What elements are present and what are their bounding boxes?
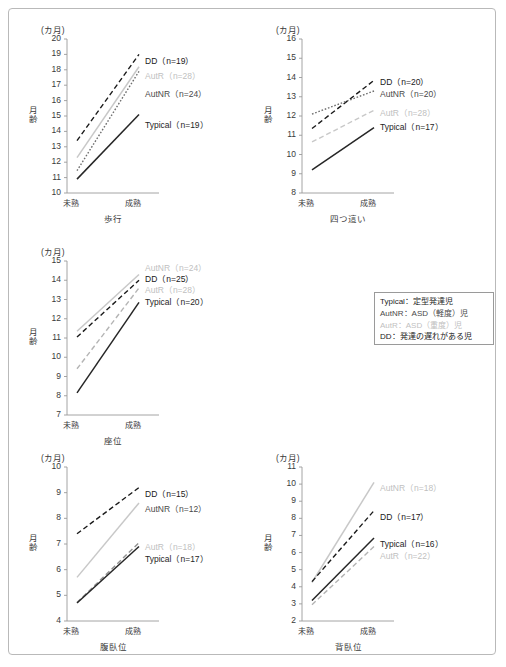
series-line-autr <box>77 67 139 158</box>
y-tick-label: 10 <box>33 187 61 197</box>
y-tick-label: 11 <box>268 461 296 471</box>
y-tick-label: 9 <box>268 168 296 178</box>
y-tick-label: 4 <box>33 615 61 625</box>
y-tick-label: 14 <box>33 125 61 135</box>
y-tick-label: 13 <box>268 91 296 101</box>
y-tick-label: 10 <box>268 149 296 159</box>
chart-panel-supine: (カ月)月齢234567891011未熟成熟背臥位AutNR（n=18）DD（n… <box>262 453 490 653</box>
series-label-autnr: AutNR（n=24） <box>145 87 207 99</box>
x-axis-title: 歩行 <box>67 212 159 224</box>
series-label-autnr: AutNR（n=18） <box>380 481 442 493</box>
y-tick-label: 16 <box>33 95 61 105</box>
series-label-autr: AutR（n=28） <box>380 106 436 118</box>
x-tick-label: 未熟 <box>298 197 314 208</box>
y-tick-label: 9 <box>33 371 61 381</box>
x-tick-label: 未熟 <box>298 625 314 636</box>
series-line-typical <box>77 114 139 179</box>
y-tick-label: 7 <box>268 529 296 539</box>
y-tick-label: 8 <box>268 512 296 522</box>
y-tick-label: 16 <box>268 33 296 43</box>
y-tick-label: 7 <box>33 409 61 419</box>
series-line-typical <box>77 302 139 392</box>
legend-item-autnr: AutNR：ASD（軽度）児 <box>380 308 488 320</box>
legend-box: Typical：定型発達児 AutNR：ASD（軽度）児 AutR：ASD（重度… <box>374 292 494 345</box>
legend-item-dd: DD：発達の遅れがある児 <box>380 331 488 343</box>
y-tick-label: 15 <box>33 110 61 120</box>
x-tick-label: 成熟 <box>125 419 141 430</box>
series-label-dd: DD（n=15） <box>145 487 194 499</box>
figure-frame: (カ月)月齢1011121314151617181920未熟成熟歩行DD（n=1… <box>8 8 496 655</box>
series-label-typical: Typical（n=16） <box>380 537 444 549</box>
chart-panel-walking: (カ月)月齢1011121314151617181920未熟成熟歩行DD（n=1… <box>27 25 255 225</box>
y-tick-label: 12 <box>268 110 296 120</box>
y-tick-label: 15 <box>33 255 61 265</box>
series-label-typical: Typical（n=19） <box>145 118 209 130</box>
series-label-typical: Typical（n=17） <box>380 120 444 132</box>
series-label-dd: DD（n=19） <box>145 54 194 66</box>
y-tick-label: 7 <box>33 538 61 548</box>
y-tick-label: 10 <box>33 351 61 361</box>
y-tick-label: 17 <box>33 79 61 89</box>
y-tick-label: 5 <box>33 589 61 599</box>
chart-panel-crawling: (カ月)月齢8910111213141516未熟成熟四つ這いDD（n=20）Au… <box>262 25 490 225</box>
x-tick-label: 成熟 <box>125 197 141 208</box>
series-line-typical <box>77 547 139 603</box>
y-tick-label: 2 <box>268 615 296 625</box>
series-line-autnr <box>77 274 139 331</box>
x-tick-label: 未熟 <box>63 419 79 430</box>
chart-plot-sitting <box>27 247 255 447</box>
series-line-dd <box>312 511 374 582</box>
y-tick-label: 6 <box>268 547 296 557</box>
y-tick-label: 12 <box>33 156 61 166</box>
series-line-autnr <box>312 482 374 582</box>
series-label-dd: DD（n=20） <box>380 75 429 87</box>
series-line-dd <box>77 488 139 534</box>
y-tick-label: 8 <box>268 187 296 197</box>
y-tick-label: 11 <box>33 172 61 182</box>
y-tick-label: 9 <box>33 487 61 497</box>
series-label-typical: Typical（n=20） <box>145 295 209 307</box>
x-axis-title: 座位 <box>67 434 159 446</box>
y-tick-label: 19 <box>33 48 61 58</box>
series-line-dd <box>312 80 374 128</box>
x-tick-label: 未熟 <box>63 625 79 636</box>
series-label-autr: AutR（n=28） <box>145 69 201 81</box>
y-tick-label: 6 <box>33 564 61 574</box>
y-tick-label: 14 <box>33 274 61 284</box>
y-tick-label: 20 <box>33 33 61 43</box>
series-label-typical: Typical（n=17） <box>145 552 209 564</box>
series-label-autr: AutR（n=22） <box>380 549 436 561</box>
y-tick-label: 4 <box>268 581 296 591</box>
series-line-autr <box>312 110 374 142</box>
x-tick-label: 成熟 <box>360 625 376 636</box>
y-tick-label: 13 <box>33 294 61 304</box>
y-tick-label: 12 <box>33 313 61 323</box>
x-axis-title: 背臥位 <box>302 640 394 652</box>
y-tick-label: 13 <box>33 141 61 151</box>
y-tick-label: 10 <box>268 478 296 488</box>
x-axis-title: 四つ這い <box>302 212 394 224</box>
series-label-autr: AutR（n=18） <box>145 540 201 552</box>
chart-panel-sitting: (カ月)月齢789101112131415未熟成熟座位AutNR（n=24）DD… <box>27 247 255 447</box>
series-label-autr: AutR（n=28） <box>145 283 201 295</box>
chart-panel-prone: (カ月)月齢45678910未熟成熟腹臥位DD（n=15）AutNR（n=12）… <box>27 453 255 653</box>
series-line-autnr <box>77 71 139 170</box>
chart-plot-supine <box>262 453 490 653</box>
y-tick-label: 8 <box>33 390 61 400</box>
y-tick-label: 18 <box>33 64 61 74</box>
y-tick-label: 9 <box>268 495 296 505</box>
y-tick-label: 10 <box>33 461 61 471</box>
y-tick-label: 11 <box>33 332 61 342</box>
legend-item-autr: AutR：ASD（重度）児 <box>380 320 488 332</box>
chart-plot-prone <box>27 453 255 653</box>
series-line-typical <box>312 538 374 600</box>
x-tick-label: 未熟 <box>63 197 79 208</box>
y-tick-label: 5 <box>268 564 296 574</box>
series-line-autnr <box>77 503 139 577</box>
y-tick-label: 15 <box>268 52 296 62</box>
y-tick-label: 14 <box>268 72 296 82</box>
series-line-dd <box>77 54 139 140</box>
series-label-autnr: AutNR（n=12） <box>145 502 207 514</box>
y-tick-label: 11 <box>268 129 296 139</box>
x-axis-title: 腹臥位 <box>67 640 159 652</box>
